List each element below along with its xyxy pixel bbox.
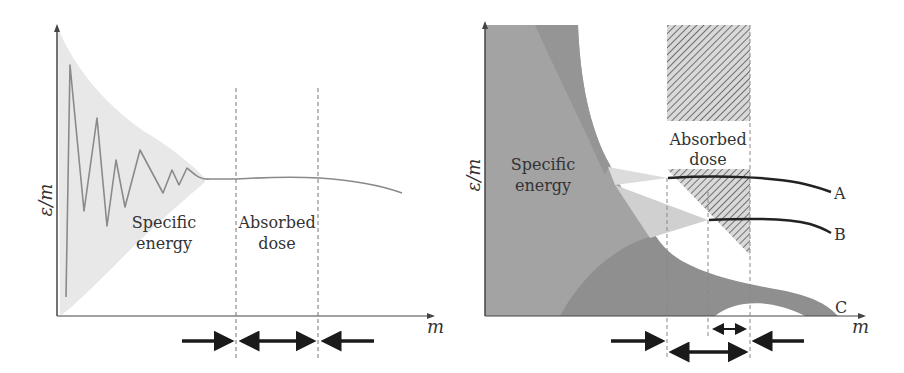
curve-label-c: C xyxy=(835,298,847,317)
hatched-region-top xyxy=(667,25,750,121)
curve-label-b: B xyxy=(834,225,846,244)
absorbed-dose-label: dose xyxy=(258,234,296,253)
absorbed-dose-label: dose xyxy=(689,150,727,169)
right-panel: ε/m m Specific energy Absorbed dose A B … xyxy=(463,23,869,360)
x-axis-label: m xyxy=(427,316,444,337)
specific-energy-label: Specific xyxy=(511,155,575,174)
y-axis-label: ε/m xyxy=(35,184,56,217)
curve-label-a: A xyxy=(833,184,846,203)
absorbed-dose-label: Absorbed xyxy=(668,130,746,149)
left-panel: ε/m m Specific energy Absorbed dose xyxy=(35,26,444,360)
diagram-canvas: ε/m m Specific energy Absorbed dose xyxy=(0,0,904,373)
specific-energy-label: energy xyxy=(136,234,192,253)
y-axis-label: ε/m xyxy=(463,159,484,192)
x-axis-label: m xyxy=(852,316,869,337)
absorbed-dose-label: Absorbed xyxy=(237,213,315,232)
specific-energy-label: Specific xyxy=(132,213,196,232)
cone-a xyxy=(608,167,668,185)
specific-energy-label: energy xyxy=(515,176,571,195)
